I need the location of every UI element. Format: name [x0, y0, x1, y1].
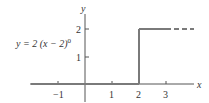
x-tick-label-3: 3	[163, 89, 168, 100]
equation-exponent: 0	[68, 37, 72, 45]
x-axis-label: x	[196, 79, 202, 90]
x-tick-label-1: 1	[109, 89, 114, 100]
x-tick-label-neg1: −1	[53, 89, 64, 100]
y-axis-label: y	[80, 3, 86, 14]
y-tick-label-2: 2	[76, 24, 81, 35]
equation-label: y = 2 (x − 2)0	[15, 37, 72, 50]
x-tick-label-2: 2	[136, 89, 141, 100]
y-tick-label-1: 1	[76, 52, 81, 63]
step-function-chart: −1 1 2 3 1 2 x y y = 2 (x − 2)0	[0, 0, 209, 103]
equation-text: y = 2 (x − 2)	[15, 38, 68, 50]
